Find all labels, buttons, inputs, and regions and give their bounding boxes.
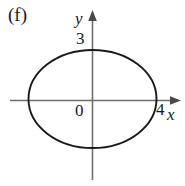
- y-axis-label: y: [75, 10, 83, 27]
- x-intercept-tick-label: 4: [156, 101, 165, 118]
- y-intercept-tick-label: 3: [76, 30, 85, 47]
- x-axis-arrowhead: [170, 96, 181, 105]
- part-label: (f): [8, 5, 27, 24]
- x-axis-label: x: [167, 106, 175, 123]
- ellipse-plot: [0, 0, 185, 186]
- origin-label: 0: [75, 102, 84, 119]
- y-axis-arrowhead: [88, 10, 97, 21]
- figure-panel: (f) y x 3 4 0: [0, 0, 185, 186]
